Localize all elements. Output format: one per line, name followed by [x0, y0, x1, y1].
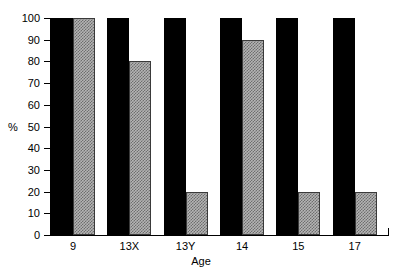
bar [242, 40, 264, 235]
bar [129, 61, 151, 235]
y-axis-tick [44, 170, 50, 171]
y-axis-tick-label-text: 70 [14, 78, 40, 89]
y-axis-tick [44, 127, 50, 128]
x-axis-tick-label: 17 [325, 241, 385, 252]
y-axis-tick-label: 20 [10, 187, 40, 198]
y-axis-tick-label: 100 [10, 13, 40, 24]
bar [355, 192, 377, 235]
bar [51, 18, 73, 235]
y-axis-tick-label: 40 [10, 143, 40, 154]
bar [276, 18, 298, 235]
y-axis-tick-label: 10 [10, 208, 40, 219]
x-axis-tick-label: 9 [43, 241, 103, 252]
y-axis-tick-label-text: 90 [14, 35, 40, 46]
bar [220, 18, 242, 235]
y-axis-tick-label: 90 [10, 35, 40, 46]
y-axis-tick [44, 213, 50, 214]
bar [107, 18, 129, 235]
bar-chart: 0102030405060708090100 % 913X13Y141517 A… [0, 0, 412, 274]
y-axis-tick-label-text: 20 [14, 187, 40, 198]
x-axis-line [50, 235, 389, 236]
bar [186, 192, 208, 235]
y-axis-tick-label-text: 10 [14, 208, 40, 219]
y-axis-tick [44, 105, 50, 106]
x-axis-title: Age [0, 256, 412, 267]
bar [333, 18, 355, 235]
y-axis-tick-label-text: 100 [14, 13, 40, 24]
bar [164, 18, 186, 235]
x-axis-tick-label: 13Y [156, 241, 216, 252]
y-axis-tick-label: 80 [10, 56, 40, 67]
y-axis-tick [44, 83, 50, 84]
y-axis-tick-label-text: 30 [14, 165, 40, 176]
y-axis-tick [44, 148, 50, 149]
y-axis-tick [44, 18, 50, 19]
y-axis-unit-label: % [8, 122, 22, 133]
y-axis-tick-label-text: 40 [14, 143, 40, 154]
x-axis-end-tick [388, 228, 389, 236]
y-axis-tick-label: 0 [10, 230, 40, 241]
y-axis-tick-label-text: 60 [14, 100, 40, 111]
x-axis-title-text: Age [191, 255, 211, 267]
y-axis-tick-label: 70 [10, 78, 40, 89]
y-axis-tick [44, 40, 50, 41]
x-axis-tick-label: 13X [99, 241, 159, 252]
y-axis-tick-label: 30 [10, 165, 40, 176]
bar [298, 192, 320, 235]
bar [73, 18, 95, 235]
x-axis-tick-label: 15 [268, 241, 328, 252]
y-axis-tick-label: 60 [10, 100, 40, 111]
y-axis-tick-label-text: 0 [14, 230, 40, 241]
y-axis-tick [44, 235, 50, 236]
y-axis-tick-label-text: 80 [14, 56, 40, 67]
y-axis-tick [44, 192, 50, 193]
y-axis-tick [44, 61, 50, 62]
x-axis-tick-label: 14 [212, 241, 272, 252]
